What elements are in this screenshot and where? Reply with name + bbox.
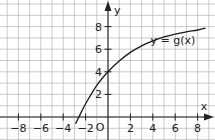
x-tick-label: −6 bbox=[33, 122, 49, 135]
origin-label: O bbox=[96, 121, 105, 134]
y-axis-arrow-icon bbox=[105, 1, 112, 11]
x-tick-label: 2 bbox=[127, 122, 134, 135]
x-axis-label: x bbox=[201, 100, 208, 113]
y-axis-label: y bbox=[114, 4, 121, 17]
y-tick-label: 8 bbox=[95, 21, 102, 34]
x-tick-label: −2 bbox=[77, 122, 93, 135]
axes bbox=[0, 1, 214, 140]
x-tick-label: 4 bbox=[149, 122, 156, 135]
y-tick-label: 2 bbox=[95, 88, 102, 101]
y-tick-label: 4 bbox=[95, 66, 102, 79]
function-graph: −8−6−4−224682468 x y O y = g(x) bbox=[0, 0, 215, 140]
x-tick-label: −4 bbox=[55, 122, 71, 135]
x-tick-label: 8 bbox=[194, 122, 201, 135]
x-tick-label: −8 bbox=[10, 122, 26, 135]
curve-label: y = g(x) bbox=[151, 34, 196, 47]
y-tick-label: 6 bbox=[95, 43, 102, 56]
x-tick-label: 6 bbox=[172, 122, 179, 135]
